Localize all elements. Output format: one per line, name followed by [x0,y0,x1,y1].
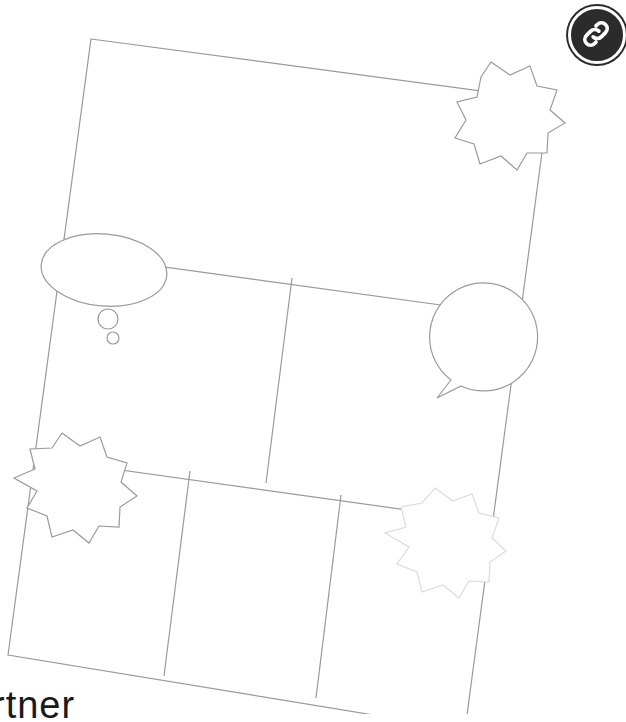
link-button[interactable] [568,6,626,64]
panel-divider-v1 [266,278,292,483]
panel-divider-v3 [316,495,341,698]
speech-bubble [430,283,538,398]
link-icon [579,17,613,51]
starburst-top-right [455,62,565,170]
starburst-bottom-right [385,488,506,598]
starburst-left [14,433,137,543]
panel-divider-v2 [164,471,190,676]
caption-text: rtner [0,686,75,722]
thought-bubble [38,229,170,344]
